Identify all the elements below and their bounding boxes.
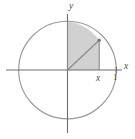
x-value-tick-label: x — [96, 74, 100, 84]
shaded-sector-region — [68, 21, 100, 70]
unit-tick-label: 1 — [113, 73, 118, 82]
x-axis-label: x — [124, 62, 128, 72]
point-on-circle-marker — [98, 39, 101, 42]
y-axis-label: y — [69, 2, 73, 12]
unit-circle-figure: y x x 1 — [0, 0, 135, 139]
unit-circle-diagram — [0, 0, 135, 139]
